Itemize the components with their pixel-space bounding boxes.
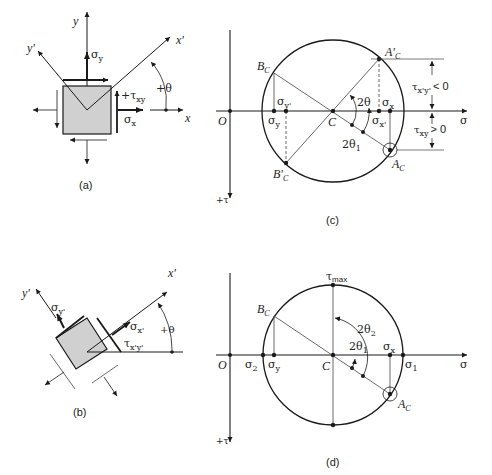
center-point [331, 109, 335, 113]
x-prime-label-b: x' [167, 266, 176, 280]
caption-a: (a) [79, 179, 92, 191]
panel-d: +τ σ O τmax BC AC C σ2 σy σx σ1 2θ2 2θ1 … [216, 270, 468, 468]
bottom-right-shear [92, 365, 118, 383]
origin-label-d: O [218, 358, 227, 372]
panel-c: +τ σ O BC A'C B'C AC C [216, 30, 468, 226]
sigma-y-label-c: σy [268, 114, 281, 129]
bottom-right-normal-arrow [104, 377, 117, 396]
sigma-yp-arrow [57, 314, 64, 328]
tau-min-point [331, 423, 335, 427]
tau-axis-label: +τ [216, 195, 229, 205]
sigma-y-point-d [272, 353, 276, 357]
panel-b: x' y' σy' σx' τx'y' +θ (b) [21, 266, 183, 418]
x-axis-label: x [184, 111, 191, 125]
sigma-axis-label-d: σ [460, 358, 468, 371]
y-axis-label: y [72, 14, 79, 28]
two-theta-arc [350, 95, 356, 125]
sigma-1-label: σ1 [405, 358, 418, 373]
center-point-d [331, 353, 335, 357]
tau-xpyp-label-b: τx'y' [124, 337, 144, 352]
theta-label: +θ [156, 82, 172, 95]
sigma-yp-label: σy' [277, 95, 291, 110]
y-prime-label-b: y' [21, 286, 30, 300]
Bc-label-d: BC [257, 302, 270, 318]
sigma-axis-label: σ [460, 114, 468, 127]
two-theta1-label: 2θ1 [342, 138, 361, 153]
two-theta-label: 2θ [357, 96, 371, 109]
sigma-xp-arrow [112, 322, 130, 335]
center-label: C [328, 115, 337, 129]
sigma-2-point [261, 353, 265, 357]
x-axis-point [164, 108, 168, 112]
caption-c: (c) [326, 214, 339, 226]
Ac-point-d [388, 392, 392, 396]
sigma-x-label-c: σx [382, 96, 395, 111]
sigma-y-label: σy [91, 48, 104, 63]
sigma-x-label: σx [124, 113, 137, 128]
origin-label: O [218, 114, 227, 128]
sigma-xp-label-c: σx' [372, 114, 386, 129]
Ac-label: AC [391, 157, 405, 173]
sigma-1-point [401, 353, 405, 357]
x-prime-label: x' [175, 33, 184, 47]
origin-point [228, 109, 232, 113]
caption-b: (b) [73, 406, 86, 418]
reference-point [170, 350, 174, 354]
point-sigma-y [272, 109, 276, 113]
Bpc-label: B'C [273, 167, 289, 183]
tau-xpyp-condition: τx'y'< 0 [412, 80, 449, 95]
sigma-xp-label-b: σx' [130, 320, 144, 335]
tau-axis-label-d: +τ [216, 436, 229, 446]
Bc-label: BC [257, 59, 270, 75]
point-Ac [388, 148, 392, 152]
point-Bpc [284, 161, 288, 165]
tau-xy-condition: τxy> 0 [414, 123, 446, 138]
center-label-d: C [322, 359, 331, 373]
panel-a: y x' y' σy +τxy σx x +θ (a) [26, 12, 191, 191]
sigma-x-label-d: σx [383, 340, 396, 355]
caption-d: (d) [326, 456, 339, 468]
bottom-left-normal-arrow [45, 372, 64, 385]
y-prime-label: y' [26, 41, 35, 55]
two-theta1-arc-d [352, 359, 355, 368]
sigma-y-label-d: σy [268, 358, 281, 373]
sigma-yp-label-b: σy' [51, 301, 65, 316]
two-theta1-arc [363, 108, 369, 132]
point-sigma-xp [377, 109, 381, 113]
two-theta2-label: 2θ2 [357, 323, 376, 338]
origin-point-d [228, 353, 232, 357]
Apc-label: A'C [384, 45, 401, 61]
theta-label-b: +θ [160, 324, 174, 335]
tau-xy-label: +τxy [121, 89, 146, 104]
mohr-circle-figure: y x' y' σy +τxy σx x +θ (a) [0, 0, 492, 475]
tau-max-label: τmax [326, 270, 347, 284]
Ac-label-d: AC [397, 397, 411, 413]
sigma-2-label: σ2 [245, 358, 258, 373]
